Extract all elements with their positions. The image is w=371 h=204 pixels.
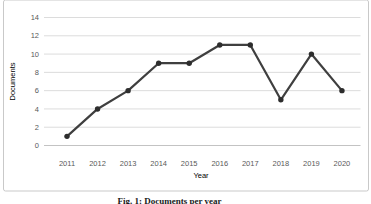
x-tick-label: 2019 [303, 159, 320, 168]
data-point [156, 61, 161, 66]
y-tick-label: 10 [31, 50, 39, 59]
y-tick-label: 12 [31, 31, 39, 40]
data-point [278, 97, 283, 102]
figure-caption: Fig. 1: Documents per year [0, 196, 339, 204]
x-tick-label: 2020 [334, 159, 351, 168]
x-tick-label: 2018 [273, 159, 290, 168]
document-page: 0246810121420112012201320142015201620172… [0, 0, 371, 204]
data-point [125, 88, 130, 93]
data-point [187, 61, 192, 66]
line-chart: 0246810121420112012201320142015201620172… [0, 0, 371, 204]
data-point [64, 134, 69, 139]
data-point [95, 106, 100, 111]
y-tick-label: 4 [35, 105, 39, 114]
x-tick-label: 2015 [181, 159, 198, 168]
data-point [217, 42, 222, 47]
x-axis-title: Year [193, 171, 209, 180]
y-tick-label: 0 [35, 141, 39, 150]
y-axis-title: Documents [8, 62, 17, 100]
y-tick-label: 6 [35, 86, 39, 95]
data-point [248, 42, 253, 47]
y-tick-label: 2 [35, 123, 39, 132]
y-tick-label: 8 [35, 68, 39, 77]
x-tick-label: 2012 [89, 159, 106, 168]
data-point [339, 88, 344, 93]
gridlines-group [44, 18, 361, 146]
x-tick-label: 2017 [242, 159, 259, 168]
y-tick-label: 14 [31, 13, 39, 22]
x-tick-label: 2013 [120, 159, 137, 168]
x-tick-label: 2016 [211, 159, 228, 168]
data-point [309, 51, 314, 56]
x-tick-label: 2014 [150, 159, 167, 168]
x-tick-label: 2011 [59, 159, 75, 168]
